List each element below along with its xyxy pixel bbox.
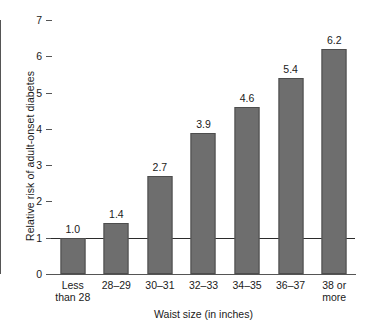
bar-value-label: 6.2 (327, 35, 342, 46)
x-axis-tick-label: 30–31 (138, 279, 182, 291)
y-axis-tick-label: 4 (0, 124, 42, 134)
bar-group[interactable]: 3.9 (182, 20, 226, 274)
x-axis-tick-label: 36–37 (269, 279, 313, 291)
bar-group[interactable]: 6.2 (312, 20, 356, 274)
x-axis-tick-label: Lessthan 28 (51, 279, 95, 303)
bar-group[interactable]: 1.0 (51, 20, 95, 274)
bar[interactable] (235, 107, 260, 274)
bar[interactable] (60, 238, 85, 274)
x-axis-tick-label: 32–33 (182, 279, 226, 291)
x-axis-tick-label: 34–35 (225, 279, 269, 291)
bar-value-label: 1.0 (65, 224, 80, 235)
x-axis-tick-label: 38 ormore (312, 279, 356, 303)
bar[interactable] (104, 223, 129, 274)
y-axis-tick-label: 0 (0, 269, 42, 279)
bar[interactable] (147, 176, 172, 274)
bar-group[interactable]: 5.4 (269, 20, 313, 274)
x-axis-line (51, 274, 356, 275)
bar-group[interactable]: 1.4 (95, 20, 139, 274)
bar[interactable] (322, 49, 347, 274)
y-axis-tick-label: 7 (0, 15, 42, 25)
bar-value-label: 1.4 (109, 209, 124, 220)
bar-value-label: 3.9 (196, 119, 211, 130)
bar-group[interactable]: 4.6 (225, 20, 269, 274)
bar-chart: Relative risk of adult-onset diabetes 01… (0, 0, 371, 326)
x-axis-title: Waist size (in inches) (51, 308, 356, 320)
bar-group[interactable]: 2.7 (138, 20, 182, 274)
y-axis-tick-label: 3 (0, 160, 42, 170)
y-axis-tick (46, 274, 52, 275)
bar[interactable] (278, 78, 303, 274)
y-axis-tick-label: 2 (0, 196, 42, 206)
y-axis-tick-label: 6 (0, 51, 42, 61)
y-axis-tick-label: 5 (0, 88, 42, 98)
x-axis-tick-label: 28–29 (95, 279, 139, 291)
y-axis-tick-label: 1 (0, 233, 42, 243)
bar-value-label: 4.6 (240, 93, 255, 104)
bar-value-label: 2.7 (153, 162, 168, 173)
bar-value-label: 5.4 (283, 64, 298, 75)
bars-layer: 1.01.42.73.94.65.46.2 (51, 20, 356, 274)
bar[interactable] (191, 133, 216, 275)
